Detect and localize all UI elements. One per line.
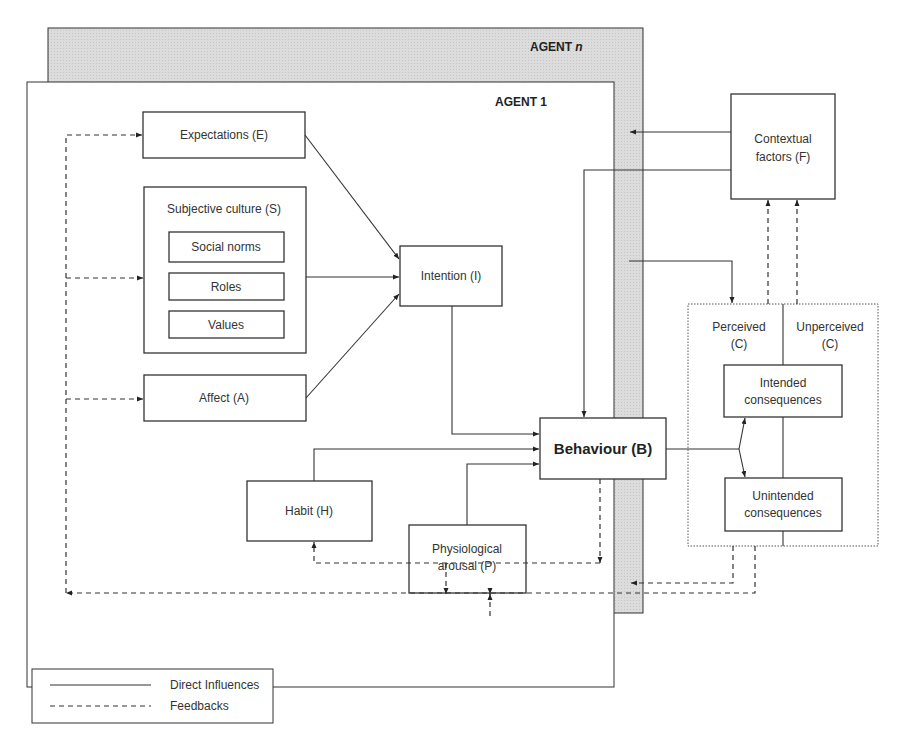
agent-1-label: AGENT 1: [495, 95, 547, 109]
svg-text:factors (F): factors (F): [756, 150, 811, 164]
svg-text:Affect (A): Affect (A): [199, 391, 249, 405]
svg-text:Unperceived: Unperceived: [796, 320, 863, 334]
svg-text:Expectations (E): Expectations (E): [180, 128, 268, 142]
svg-text:Social norms: Social norms: [191, 240, 260, 254]
svg-text:Values: Values: [208, 318, 244, 332]
agent-1-frame: AGENT 1: [27, 82, 614, 687]
svg-text:Roles: Roles: [211, 280, 242, 294]
expectations-node: Expectations (E): [143, 112, 305, 158]
intention-node: Intention (I): [400, 246, 502, 306]
svg-text:(C): (C): [731, 337, 748, 351]
svg-text:Intended: Intended: [760, 376, 807, 390]
roles-node: Roles: [169, 273, 284, 300]
intended-consequences-node: Intended consequences: [724, 365, 842, 417]
svg-text:Intention (I): Intention (I): [421, 269, 482, 283]
unintended-consequences-node: Unintended consequences: [725, 478, 842, 531]
svg-text:Physiological: Physiological: [432, 542, 502, 556]
subjective-culture-node: Subjective culture (S) Social norms Role…: [144, 187, 306, 353]
legend: Direct Influences Feedbacks: [32, 669, 273, 723]
social-norms-node: Social norms: [169, 232, 284, 262]
agent-n-label: AGENT n: [530, 40, 583, 54]
svg-text:Contextual: Contextual: [754, 132, 811, 146]
svg-text:Subjective culture (S): Subjective culture (S): [167, 202, 281, 216]
svg-text:Behaviour (B): Behaviour (B): [554, 440, 652, 457]
legend-direct-label: Direct Influences: [170, 678, 259, 692]
svg-text:Perceived: Perceived: [712, 320, 765, 334]
habit-node: Habit (H): [247, 481, 372, 541]
behaviour-model-diagram: AGENT n AGENT 1 Expectations (E) Subject…: [0, 0, 903, 744]
affect-node: Affect (A): [144, 375, 306, 421]
svg-text:Habit (H): Habit (H): [285, 504, 333, 518]
svg-text:consequences: consequences: [744, 393, 821, 407]
svg-text:(C): (C): [822, 337, 839, 351]
svg-text:Unintended: Unintended: [752, 489, 813, 503]
svg-text:consequences: consequences: [744, 506, 821, 520]
physiological-arousal-node: Physiological arousal (P): [409, 525, 526, 593]
behaviour-node: Behaviour (B): [540, 418, 666, 479]
legend-feedbacks-label: Feedbacks: [170, 699, 229, 713]
contextual-factors-node: Contextual factors (F): [731, 94, 835, 199]
values-node: Values: [169, 311, 284, 338]
